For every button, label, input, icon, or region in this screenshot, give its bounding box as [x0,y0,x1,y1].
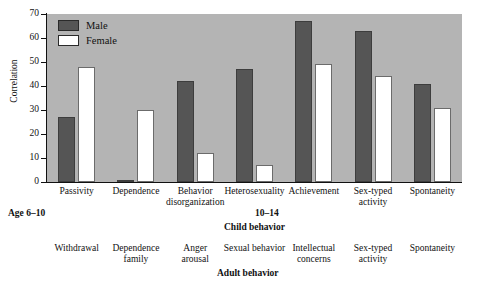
x-axis-label-line: activity [337,197,408,208]
bar-male-6 [414,84,431,182]
legend-swatch-male [58,20,79,31]
y-axis-tick [41,110,47,111]
bar-male-3 [236,69,253,182]
legend-swatch-female [58,35,79,46]
y-axis-tick [41,158,47,159]
y-axis-tick [41,62,47,63]
annotation-child-behavior: Child behavior [224,222,285,232]
y-axis-tick-label: 40 [0,81,39,90]
bar-female-1 [137,110,154,182]
y-axis-title: Correlation [9,39,19,123]
y-axis-tick-label: 20 [0,129,39,138]
legend-label-female: Female [86,35,117,46]
bar-female-4 [315,64,332,182]
y-axis-tick-label: 50 [0,57,39,66]
bar-male-0 [58,117,75,182]
annotation-age-right: 10–14 [255,208,279,218]
bar-male-5 [355,31,372,182]
legend-label-male: Male [86,20,108,31]
annotation-adult-behavior: Adult behavior [217,268,279,278]
y-axis-tick-label: 70 [0,9,39,18]
bar-female-3 [256,165,273,182]
adult-label-line: Spontaneity [397,243,468,254]
y-axis-tick [41,14,47,15]
chart-legend: Male Female [58,19,117,49]
y-axis-tick-label: 10 [0,153,39,162]
y-axis-tick [41,86,47,87]
y-axis-tick-label: 30 [0,105,39,114]
bar-male-2 [177,81,194,182]
bar-male-1 [117,180,134,182]
adult-label-6: Spontaneity [397,243,468,254]
y-axis-tick-label: 0 [0,177,39,186]
x-axis-line [46,182,462,183]
legend-item-male: Male [58,19,117,31]
x-axis-label-line: disorganization [160,197,231,208]
annotation-age-left: Age 6–10 [8,208,45,218]
bar-female-5 [375,76,392,182]
y-axis-tick [41,182,47,183]
x-axis-label-line: Spontaneity [397,186,468,197]
legend-item-female: Female [58,34,117,46]
y-axis-tick-label: 60 [0,33,39,42]
adult-label-line: arousal [160,254,231,265]
chart-figure: 010203040506070 Correlation Male Female … [0,0,478,296]
y-axis-tick [41,38,47,39]
bar-male-4 [295,21,312,182]
y-axis-tick [41,134,47,135]
adult-label-line: activity [337,254,408,265]
bar-female-0 [78,67,95,182]
x-axis-label-6: Spontaneity [397,186,468,197]
bar-female-2 [197,153,214,182]
bar-female-6 [434,108,451,182]
